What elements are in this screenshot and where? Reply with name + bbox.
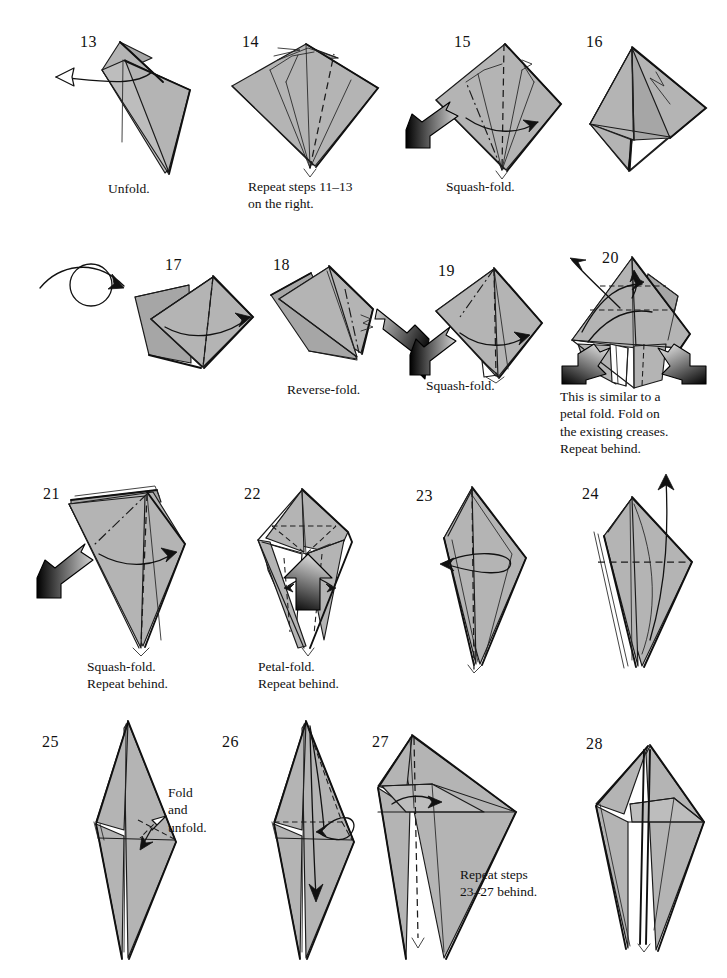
step-panel-15: 15 Squash-fol bbox=[398, 30, 578, 185]
step-number-21: 21 bbox=[43, 486, 60, 502]
caption-14: Repeat steps 11–13 on the right. bbox=[248, 178, 352, 213]
diagram-28 bbox=[570, 730, 725, 960]
paper-main-diamond bbox=[436, 44, 561, 170]
instruction-sheet: 13 Unfold. 14 bbox=[0, 0, 727, 978]
step-number-28: 28 bbox=[586, 736, 603, 752]
paper-spine-left bbox=[640, 750, 644, 944]
step-panel-22: 22 bbox=[240, 482, 385, 667]
step-number-15: 15 bbox=[454, 34, 471, 50]
diagram-25 bbox=[40, 712, 200, 962]
push-arrow-icon bbox=[37, 544, 93, 598]
caption-19: Squash-fold. bbox=[426, 377, 495, 394]
step-number-18: 18 bbox=[273, 257, 290, 273]
step-panel-24: 24 bbox=[572, 470, 727, 680]
step-panel-25: 25 Fold and unfold. bbox=[40, 712, 200, 962]
step-number-25: 25 bbox=[42, 734, 59, 750]
diagram-17 bbox=[125, 255, 285, 385]
diagram-23 bbox=[408, 482, 558, 677]
paper-face-left bbox=[436, 269, 498, 377]
step-panel-13: 13 Unfold. bbox=[30, 30, 230, 185]
paper-face-white-left bbox=[610, 344, 628, 386]
paper-main-diamond bbox=[232, 44, 378, 166]
caption-22: Petal-fold. Repeat behind. bbox=[258, 658, 339, 693]
unfold-arrow-head-icon bbox=[56, 68, 74, 86]
caption-15: Squash-fold. bbox=[446, 178, 515, 195]
step-number-26: 26 bbox=[222, 734, 239, 750]
diagram-21 bbox=[35, 482, 210, 667]
caption-20: This is similar to a petal fold. Fold on… bbox=[560, 388, 668, 457]
diagram-13 bbox=[30, 30, 230, 185]
turn-over-circle bbox=[70, 264, 112, 306]
step-number-23: 23 bbox=[416, 488, 433, 504]
pull-arrow-head-icon bbox=[570, 258, 586, 270]
diagram-20 bbox=[548, 248, 727, 398]
step-number-17: 17 bbox=[165, 257, 182, 273]
paper-bottom-notch bbox=[468, 665, 482, 673]
diagram-15 bbox=[398, 30, 578, 185]
paper-bottom-notch bbox=[638, 944, 650, 952]
push-arrow-icon bbox=[410, 327, 456, 375]
step-number-20: 20 bbox=[602, 250, 619, 266]
step-panel-21: 21 Squash-fold. Repe bbox=[35, 482, 210, 667]
caption-18: Reverse-fold. bbox=[287, 381, 360, 398]
paper-face-white bbox=[630, 136, 670, 170]
diagram-22 bbox=[240, 482, 385, 667]
step-panel-14: 14 Repeat steps 11–13 on the right. bbox=[218, 30, 393, 185]
step-panel-16: 16 bbox=[570, 30, 727, 185]
step-number-27: 27 bbox=[372, 734, 389, 750]
diagram-27 bbox=[370, 712, 540, 962]
step-number-24: 24 bbox=[582, 486, 599, 502]
paper-face-left bbox=[572, 258, 636, 348]
paper-face-left bbox=[266, 490, 304, 552]
diagram-14 bbox=[218, 30, 393, 185]
caption-13: Unfold. bbox=[108, 180, 150, 197]
step-number-14: 14 bbox=[242, 34, 259, 50]
step-panel-20: 20 bbox=[548, 248, 727, 398]
paper-face-left bbox=[69, 496, 145, 648]
diagram-16 bbox=[570, 30, 727, 185]
step-panel-26: 26 bbox=[218, 712, 378, 962]
note-25: Fold and unfold. bbox=[168, 784, 207, 836]
step-number-16: 16 bbox=[586, 34, 603, 50]
step-number-22: 22 bbox=[244, 486, 261, 502]
step-panel-23: 23 bbox=[408, 482, 558, 677]
paper-bottom-notch bbox=[133, 648, 149, 656]
step-number-19: 19 bbox=[438, 263, 455, 279]
step-panel-28: 28 Repeat steps 23–27 behind. bbox=[570, 730, 725, 960]
diagram-26 bbox=[218, 712, 378, 962]
step-number-13: 13 bbox=[80, 34, 97, 50]
paper-bottom-notch bbox=[304, 169, 316, 177]
caption-21: Squash-fold. Repeat behind. bbox=[87, 658, 168, 693]
paper-bottom-notch bbox=[302, 648, 314, 656]
paper-bottom-notch bbox=[412, 938, 424, 948]
step-panel-27: 27 bbox=[370, 712, 540, 962]
caption-28: Repeat steps 23–27 behind. bbox=[460, 866, 537, 901]
step-panel-17: 17 bbox=[125, 255, 285, 385]
